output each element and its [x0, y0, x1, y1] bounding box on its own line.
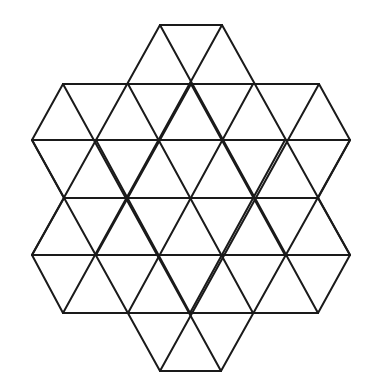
grid-line-diagonal	[32, 198, 64, 255]
grid-line-diagonal	[319, 84, 350, 140]
grid-line-diagonal	[318, 255, 350, 313]
grid-line-diagonal	[318, 140, 350, 198]
triangle-grid-diagram	[0, 0, 371, 376]
grid-line-diagonal	[160, 25, 318, 313]
grid-line-diagonal	[63, 25, 222, 313]
grid-line-diagonal	[32, 84, 63, 140]
grid-line-diagonal	[160, 84, 319, 371]
grid-line-diagonal	[32, 255, 63, 313]
grid-line-diagonal	[63, 84, 221, 371]
grid-line-diagonal	[32, 140, 64, 198]
grid-line-diagonal	[318, 198, 350, 255]
